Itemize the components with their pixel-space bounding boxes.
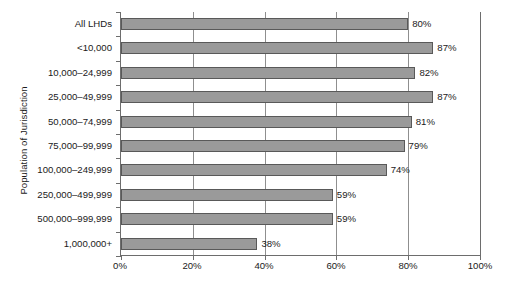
bar-value-label: 81% bbox=[416, 114, 435, 130]
bar bbox=[121, 238, 257, 250]
bar-value-label: 59% bbox=[337, 187, 356, 203]
x-axis-tick-label: 60% bbox=[326, 259, 345, 273]
bar-value-label: 74% bbox=[391, 162, 410, 178]
category-label: All LHDs bbox=[75, 12, 112, 36]
bar bbox=[121, 42, 433, 54]
bar-row: 80% bbox=[121, 12, 480, 36]
bar-row: 79% bbox=[121, 134, 480, 158]
x-axis-tick-label: 80% bbox=[398, 259, 417, 273]
category-label: <10,000 bbox=[77, 36, 112, 60]
bar-row: 59% bbox=[121, 207, 480, 231]
bar-value-label: 82% bbox=[419, 65, 438, 81]
bar bbox=[121, 164, 387, 176]
bar-value-label: 38% bbox=[261, 236, 280, 252]
category-label: 1,000,000+ bbox=[64, 232, 112, 256]
bar bbox=[121, 213, 333, 225]
bar bbox=[121, 91, 433, 103]
bar-chart: Population of Jurisdiction All LHDs<10,0… bbox=[0, 0, 505, 281]
x-axis-tick-labels: 0%20%40%60%80%100% bbox=[120, 259, 480, 275]
bar-row: 74% bbox=[121, 158, 480, 182]
bar bbox=[121, 67, 415, 79]
bar-value-label: 87% bbox=[437, 40, 456, 56]
x-axis-tick-label: 20% bbox=[182, 259, 201, 273]
bar-row: 38% bbox=[121, 232, 480, 256]
bar bbox=[121, 18, 408, 30]
category-label: 75,000–99,999 bbox=[48, 134, 112, 158]
plot-area: 80%87%82%87%81%79%74%59%59%38% bbox=[120, 12, 480, 256]
bar-value-label: 80% bbox=[412, 16, 431, 32]
bar bbox=[121, 140, 405, 152]
bar bbox=[121, 189, 333, 201]
category-label: 25,000–49,999 bbox=[48, 85, 112, 109]
x-axis-tick-label: 100% bbox=[468, 259, 493, 273]
bar-row: 87% bbox=[121, 85, 480, 109]
category-label: 50,000–74,999 bbox=[48, 110, 112, 134]
bar-value-label: 59% bbox=[337, 211, 356, 227]
category-label: 100,000–249,999 bbox=[37, 158, 112, 182]
category-label: 10,000–24,999 bbox=[48, 61, 112, 85]
gridline bbox=[480, 12, 481, 255]
y-axis-tick bbox=[116, 256, 121, 257]
category-label: 500,000–999,999 bbox=[37, 207, 112, 231]
bar-row: 81% bbox=[121, 110, 480, 134]
bar-row: 87% bbox=[121, 36, 480, 60]
bar bbox=[121, 116, 412, 128]
category-label: 250,000–499,999 bbox=[37, 183, 112, 207]
category-axis-labels: All LHDs<10,00010,000–24,99925,000–49,99… bbox=[18, 12, 116, 256]
bar-value-label: 87% bbox=[437, 89, 456, 105]
x-axis-tick-label: 0% bbox=[113, 259, 127, 273]
bar-row: 82% bbox=[121, 61, 480, 85]
bar-row: 59% bbox=[121, 183, 480, 207]
bar-value-label: 79% bbox=[409, 138, 428, 154]
x-axis-tick-label: 40% bbox=[254, 259, 273, 273]
